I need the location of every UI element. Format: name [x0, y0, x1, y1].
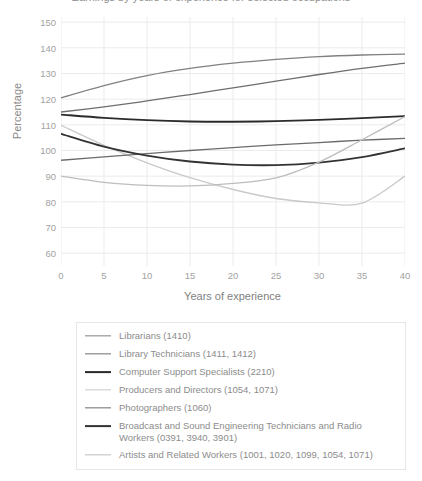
- x-tick-label: 0: [58, 270, 63, 281]
- y-axis-tick-labels: 60708090100110120130140150: [24, 17, 56, 266]
- x-axis-tick-labels: 0510152025303540: [61, 270, 405, 284]
- legend-item-label: Librarians (1410): [119, 330, 191, 342]
- x-tick-label: 15: [185, 270, 196, 281]
- legend-item[interactable]: Producers and Directors (1054, 1071): [85, 384, 397, 396]
- y-tick-label: 90: [45, 171, 56, 182]
- legend-item-label: Computer Support Specialists (2210): [119, 366, 275, 378]
- x-axis-title: Years of experience: [60, 290, 405, 302]
- legend-item-label: Library Technicians (1411, 1412): [119, 348, 256, 360]
- y-tick-label: 140: [40, 42, 56, 53]
- legend-item[interactable]: Photographers (1060): [85, 402, 397, 414]
- y-tick-label: 150: [40, 17, 56, 28]
- x-tick-label: 10: [142, 270, 153, 281]
- y-tick-label: 130: [40, 68, 56, 79]
- y-axis-title: Percentage: [11, 66, 23, 156]
- y-tick-label: 70: [45, 222, 56, 233]
- x-tick-label: 30: [314, 270, 325, 281]
- x-tick-label: 5: [101, 270, 106, 281]
- x-tick-label: 35: [357, 270, 368, 281]
- legend-item-label: Artists and Related Workers (1001, 1020,…: [119, 449, 373, 461]
- plot-area: [61, 17, 405, 266]
- legend-item[interactable]: Artists and Related Workers (1001, 1020,…: [85, 449, 397, 461]
- legend-line-swatch-icon: [85, 420, 111, 432]
- legend-line-swatch-icon: [85, 348, 111, 360]
- x-tick-label: 25: [271, 270, 282, 281]
- y-tick-label: 110: [41, 119, 56, 130]
- chart-figure: Earnings by years of experience for sele…: [0, 0, 422, 481]
- y-tick-label: 120: [40, 94, 56, 105]
- legend-item-label: Producers and Directors (1054, 1071): [119, 384, 278, 396]
- x-tick-label: 40: [400, 270, 411, 281]
- legend-line-swatch-icon: [85, 402, 111, 414]
- y-tick-label: 100: [40, 145, 56, 156]
- y-tick-label: 60: [45, 248, 56, 259]
- legend-line-swatch-icon: [85, 330, 111, 342]
- legend-item-label: Photographers (1060): [119, 402, 211, 414]
- legend-item[interactable]: Librarians (1410): [85, 330, 397, 342]
- legend-item[interactable]: Broadcast and Sound Engineering Technici…: [85, 420, 397, 443]
- grid-lines: [61, 17, 405, 266]
- legend-line-swatch-icon: [85, 366, 111, 378]
- legend-line-swatch-icon: [85, 384, 111, 396]
- legend-item[interactable]: Library Technicians (1411, 1412): [85, 348, 397, 360]
- legend-item[interactable]: Computer Support Specialists (2210): [85, 366, 397, 378]
- x-tick-label: 20: [228, 270, 239, 281]
- legend-line-swatch-icon: [85, 449, 111, 461]
- y-tick-label: 80: [45, 196, 56, 207]
- chart-legend: Librarians (1410)Library Technicians (14…: [76, 322, 406, 470]
- chart-title: Earnings by years of experience for sele…: [0, 0, 422, 3]
- legend-item-label: Broadcast and Sound Engineering Technici…: [119, 420, 397, 443]
